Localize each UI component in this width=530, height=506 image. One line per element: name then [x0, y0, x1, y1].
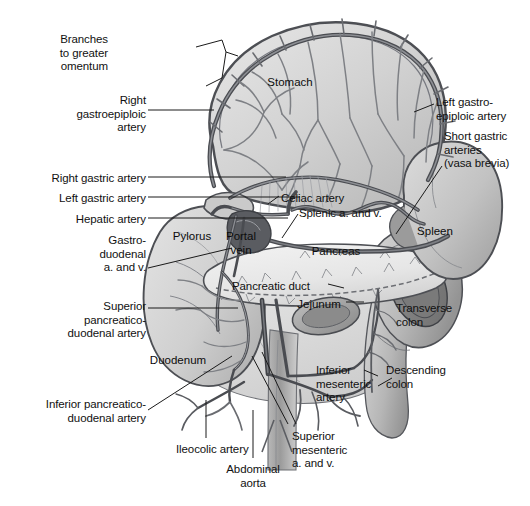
label-right-gastroepiploic-artery: Right gastroepiploic artery — [20, 94, 146, 135]
label-pancreatic-duct: Pancreatic duct — [232, 280, 330, 294]
label-superior-pancreaticoduodenal-artery: Superior pancreatico- duodenal artery — [38, 300, 146, 341]
label-right-gastric-artery: Right gastric artery — [20, 172, 146, 186]
label-abdominal-aorta: Abdominal aorta — [214, 463, 292, 490]
label-spleen: Spleen — [410, 225, 460, 239]
label-duodenum: Duodenum — [143, 354, 213, 368]
label-left-gastric-artery: Left gastric artery — [26, 192, 146, 206]
label-portal-vein: Portal vein — [219, 230, 263, 257]
label-jejunum: Jejunum — [291, 298, 347, 312]
label-branches-to-greater-omentum: Branches to greater omentum — [20, 33, 108, 74]
label-inferior-pancreaticoduodenal-artery: Inferior pancreatico- duodenal artery — [20, 398, 146, 425]
label-superior-mesenteric-a-and-v: Superior mesenteric a. and v. — [292, 430, 378, 471]
anatomical-figure: Branches to greater omentum Right gastro… — [0, 0, 530, 506]
label-splenic-a-and-v: Splenic a. and v. — [299, 207, 403, 221]
label-pancreas: Pancreas — [306, 245, 366, 259]
label-stomach: Stomach — [260, 76, 320, 90]
label-descending-colon: Descending colon — [386, 364, 464, 391]
label-short-gastric-arteries: Short gastric arteries (vasa brevia) — [444, 130, 530, 171]
label-celiac-artery: Celiac artery — [281, 192, 365, 206]
label-inferior-mesenteric-artery: Inferior mesenteric artery — [316, 364, 390, 405]
label-hepatic-artery: Hepatic artery — [50, 213, 146, 227]
label-left-gastroepiploic-artery: Left gastro- epiploic artery — [436, 96, 530, 123]
label-gastroduodenal-a-and-v: Gastro- duodenal a. and v. — [78, 234, 146, 275]
label-ileocolic-artery: Ileocolic artery — [176, 443, 268, 457]
label-transverse-colon: Transverse colon — [396, 302, 472, 329]
label-pylorus: Pylorus — [167, 230, 217, 244]
